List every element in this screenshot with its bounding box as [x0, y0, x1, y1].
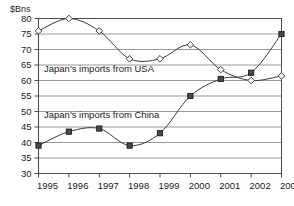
data-point-marker — [157, 131, 162, 136]
y-tick-label: 60 — [21, 75, 32, 86]
y-axis-tick-labels: 3035404550556065707580 — [21, 13, 32, 179]
data-point-marker — [97, 126, 102, 131]
data-point-marker — [248, 77, 255, 84]
series-annotation-china: Japan's imports from China — [44, 109, 160, 120]
x-tick-label: 1995 — [37, 180, 58, 191]
data-point-marker — [278, 73, 285, 80]
series-layer — [35, 15, 285, 148]
y-tick-label: 35 — [21, 152, 32, 163]
x-tick-label: 2001 — [219, 180, 240, 191]
series-annotations: Japan's imports from USAJapan's imports … — [44, 63, 160, 121]
y-tick-label: 70 — [21, 44, 32, 55]
data-point-marker — [127, 143, 132, 148]
data-point-marker — [66, 129, 71, 134]
data-point-marker — [279, 31, 284, 36]
x-tick-label: 1999 — [158, 180, 179, 191]
y-tick-label: 40 — [21, 137, 32, 148]
data-point-marker — [217, 66, 224, 73]
y-tick-label: 45 — [21, 121, 32, 132]
y-tick-label: 65 — [21, 59, 32, 70]
x-tick-label: 2000 — [189, 180, 210, 191]
data-point-marker — [126, 56, 133, 63]
gridlines — [39, 34, 282, 158]
series-annotation-usa: Japan's imports from USA — [44, 63, 155, 74]
x-tick-label: 1998 — [128, 180, 149, 191]
data-point-marker — [188, 93, 193, 98]
line-chart: $Bns 3035404550556065707580 199519961997… — [0, 0, 294, 206]
chart-canvas: $Bns 3035404550556065707580 199519961997… — [0, 0, 294, 206]
data-point-marker — [66, 15, 73, 22]
x-tick-label: 1997 — [98, 180, 119, 191]
y-tick-label: 30 — [21, 168, 32, 179]
series-china — [36, 31, 284, 148]
x-tick-label: 1996 — [67, 180, 88, 191]
data-point-marker — [157, 56, 164, 63]
data-point-marker — [36, 143, 41, 148]
data-point-marker — [249, 70, 254, 75]
data-point-marker — [187, 42, 194, 49]
x-axis-tick-labels: 199519961997199819992000200120022003 — [37, 180, 294, 191]
data-point-marker — [218, 76, 223, 81]
x-tick-label: 2003 — [280, 180, 294, 191]
x-tick-label: 2002 — [250, 180, 271, 191]
data-point-marker — [35, 28, 42, 35]
y-tick-label: 75 — [21, 28, 32, 39]
y-tick-label: 50 — [21, 106, 32, 117]
y-tick-label: 80 — [21, 13, 32, 24]
y-tick-label: 55 — [21, 90, 32, 101]
x-axis-ticks — [39, 174, 282, 178]
series-line — [39, 34, 282, 146]
